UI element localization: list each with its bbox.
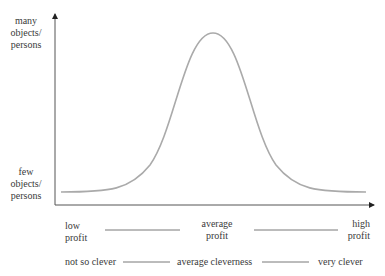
label-line: many (0, 15, 52, 27)
very-clever-label: very clever (318, 256, 363, 268)
average-profit-label: average profit (187, 218, 247, 242)
not-so-clever-label: not so clever (65, 256, 116, 268)
high-profit-label: high profit (330, 218, 370, 242)
y-axis-top-label: many objects/ persons (0, 15, 52, 51)
y-axis-bottom-label: few objects/ persons (0, 166, 52, 202)
bell-curve (61, 33, 366, 192)
label-line: persons (0, 190, 52, 202)
label-line: profit (65, 232, 87, 244)
label-line: few (0, 166, 52, 178)
label-line: objects/ (0, 27, 52, 39)
label-line: persons (0, 39, 52, 51)
label-line: average (187, 218, 247, 230)
average-cleverness-label: average cleverness (177, 256, 252, 268)
label-line: profit (330, 230, 370, 242)
low-profit-label: low profit (65, 220, 87, 244)
label-line: profit (187, 230, 247, 242)
label-line: high (330, 218, 370, 230)
label-line: low (65, 220, 87, 232)
label-line: objects/ (0, 178, 52, 190)
